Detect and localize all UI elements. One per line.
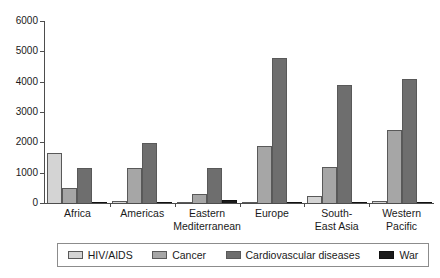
x-tick-label: South- East Asia [315,207,359,232]
legend-label: Cancer [172,250,206,261]
legend-label: War [399,250,418,261]
legend-swatch-icon [152,251,167,259]
y-tick-label: 4000 [16,77,38,87]
bar-chart: 0100020003000400050006000 AfricaAmericas… [0,0,440,278]
bar [352,202,367,203]
bar [242,202,257,203]
bar-group [304,21,369,203]
bar [307,196,322,203]
x-tick-label: Americas [120,207,164,220]
bar [77,168,92,203]
bar [92,202,107,203]
legend-label: Cardiovascular diseases [246,250,360,261]
bar [402,79,417,203]
bar [372,201,387,203]
x-tick-label: Europe [255,207,289,220]
legend-item: Cancer [152,250,206,261]
y-axis: 0100020003000400050006000 [0,0,44,232]
plot-wrapper: 0100020003000400050006000 [0,0,440,232]
bar [337,85,352,203]
bar [272,58,287,203]
bar-group [240,21,305,203]
legend-item: Cardiovascular diseases [226,250,360,261]
bar [192,194,207,203]
y-tick-label: 6000 [16,16,38,26]
bar-group [45,21,110,203]
bar [417,202,432,203]
plot-area [45,21,434,203]
bar [157,202,172,203]
bar [127,168,142,203]
x-tick-label: Western Pacific [382,207,421,232]
bar [387,130,402,203]
y-tick-label: 3000 [16,107,38,117]
bar [322,167,337,203]
bar [207,168,222,203]
legend-item: War [379,250,418,261]
chart-legend: HIV/AIDSCancerCardiovascular diseasesWar [57,243,429,267]
legend-label: HIV/AIDS [88,250,133,261]
x-tick-label: Eastern Mediterranean [173,207,241,232]
bar-group [369,21,434,203]
x-tick-label: Africa [64,207,91,220]
legend-swatch-icon [68,251,83,259]
bar [222,200,237,203]
bar-group [175,21,240,203]
bar [287,202,302,203]
bar [177,202,192,203]
bar [62,188,77,203]
bar [47,153,62,203]
bar [257,146,272,203]
bar-group [110,21,175,203]
legend-swatch-icon [226,251,241,259]
y-tick-label: 1000 [16,168,38,178]
bar [142,143,157,203]
y-tick-label: 2000 [16,137,38,147]
legend-item: HIV/AIDS [68,250,133,261]
bar [112,201,127,203]
y-tick-label: 5000 [16,46,38,56]
legend-swatch-icon [379,251,394,259]
